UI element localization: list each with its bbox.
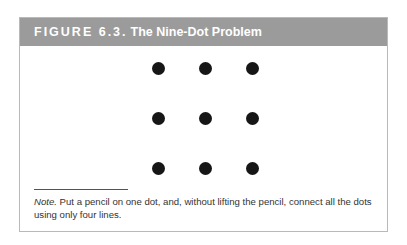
dot [199, 112, 212, 125]
note-divider [34, 189, 128, 190]
dot [246, 162, 259, 175]
figure-note: Note. Put a pencil on one dot, and, with… [34, 195, 374, 221]
note-label: Note. [34, 196, 57, 207]
dot [152, 62, 165, 75]
figure-container: FIGURE 6.3.The Nine-Dot Problem Note. Pu… [19, 17, 388, 232]
note-body: Put a pencil on one dot, and, without li… [34, 196, 372, 220]
dot [246, 62, 259, 75]
dot [152, 112, 165, 125]
dot [199, 162, 212, 175]
dot [199, 62, 212, 75]
dot [152, 162, 165, 175]
dot [246, 112, 259, 125]
